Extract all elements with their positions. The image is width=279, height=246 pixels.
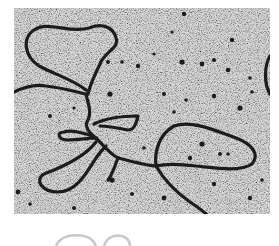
micrograph-image [14,8,270,214]
bottom-arcs [0,214,279,246]
